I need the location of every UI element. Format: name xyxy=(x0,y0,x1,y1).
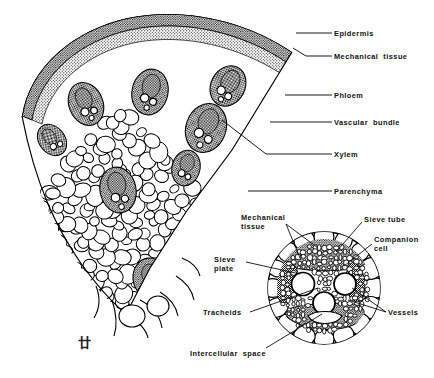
label-vessels: Vessels xyxy=(388,308,418,317)
stem-sector-wedge xyxy=(0,0,300,341)
label-epidermis: Epidermis xyxy=(334,29,374,38)
label-vascular-bundle: Vascular bundle xyxy=(334,118,400,127)
label-parenchyma: Parenchyma xyxy=(334,187,382,196)
figure-canvas: Epidermis Mechanical tissue Phloem Vascu… xyxy=(0,0,434,378)
label-sieve-tube: Sieve tube xyxy=(364,215,405,224)
leader-mechanical-tissue xyxy=(293,48,332,56)
label-xylem: Xylem xyxy=(334,150,358,159)
vascular-bundle-detail xyxy=(262,226,387,348)
inset-vessel-left xyxy=(292,273,315,296)
inset-vessel-right xyxy=(334,273,356,295)
label-phloem: Phloem xyxy=(334,91,363,100)
label-mechanical-tissue: Mechanical tissue xyxy=(334,52,407,61)
label-intercellular-space: Intercellular space xyxy=(190,349,266,358)
inset-vessel-bottom xyxy=(313,292,335,314)
label-mechanical-tissue-inset: Mechanical tissue xyxy=(241,213,285,231)
label-companion-cell: Companion cell xyxy=(374,235,419,253)
label-tracheids: Tracheids xyxy=(203,308,242,317)
artist-signature: 廿 xyxy=(78,332,91,351)
label-sieve-plate: Sieve plate xyxy=(214,255,236,273)
